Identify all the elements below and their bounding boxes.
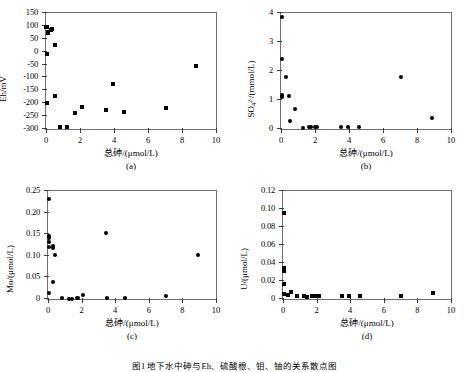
panel-a-plot-area: -300-250-200-150-100-500501001500246810 bbox=[45, 12, 217, 130]
panel-b-x-axis-label: 总砷/(μmol/L) bbox=[280, 146, 452, 159]
x-tick-label-c-5: 10 bbox=[212, 306, 221, 315]
y-tick-label-d-2: 0.04 bbox=[261, 258, 275, 267]
panel-a-x-axis-label: 总砷/(μmol/L) bbox=[45, 146, 217, 159]
y-tick-label-d-5: 0.10 bbox=[261, 204, 275, 213]
panel-c: Mo/(μmol/L) 00.050.100.150.200.250246810… bbox=[0, 180, 234, 358]
x-tick-d-2: 4 bbox=[350, 298, 351, 303]
panel-a-y-axis-label: Eh/mV bbox=[0, 76, 8, 102]
y-tick-b-4: 4 bbox=[277, 12, 282, 13]
data-point bbox=[105, 296, 109, 300]
x-tick-a-3: 6 bbox=[148, 128, 149, 133]
x-tick-label-b-5: 10 bbox=[447, 136, 456, 145]
y-tick-label-a-4: -100 bbox=[23, 72, 38, 81]
x-tick-label-a-4: 8 bbox=[180, 136, 184, 145]
data-point bbox=[280, 57, 284, 61]
data-point bbox=[76, 296, 80, 300]
data-point bbox=[45, 52, 49, 56]
data-point bbox=[358, 294, 362, 298]
data-point bbox=[293, 107, 297, 111]
x-tick-a-2: 4 bbox=[114, 128, 115, 133]
y-tick-label-c-2: 0.10 bbox=[26, 251, 40, 260]
x-tick-d-0: 0 bbox=[283, 298, 284, 303]
y-tick-d-6: 0.12 bbox=[279, 190, 284, 191]
data-point bbox=[282, 269, 286, 273]
y-tick-a-9: 150 bbox=[42, 12, 47, 13]
panel-d-x-axis-label: 总砷/(μmol/L) bbox=[282, 316, 452, 329]
data-point bbox=[399, 294, 403, 298]
data-point bbox=[357, 125, 361, 129]
data-point bbox=[123, 296, 127, 300]
y-tick-c-4: 0.20 bbox=[44, 212, 49, 213]
x-tick-label-b-3: 6 bbox=[381, 136, 385, 145]
y-tick-label-a-8: 100 bbox=[26, 21, 38, 30]
data-point bbox=[399, 75, 403, 79]
y-tick-label-c-4: 0.20 bbox=[26, 207, 40, 216]
data-point bbox=[65, 125, 69, 129]
panel-c-x-axis-label: 总砷/(μmol/L) bbox=[47, 316, 217, 329]
data-point bbox=[431, 291, 435, 295]
y-tick-a-5: -50 bbox=[42, 64, 47, 65]
data-point bbox=[288, 119, 292, 123]
data-point bbox=[53, 94, 57, 98]
data-point bbox=[295, 294, 299, 298]
y-tick-label-c-3: 0.15 bbox=[26, 229, 40, 238]
y-tick-b-3: 3 bbox=[277, 41, 282, 42]
y-tick-label-a-3: -150 bbox=[23, 85, 38, 94]
x-tick-b-0: 0 bbox=[281, 128, 282, 133]
data-point bbox=[164, 106, 168, 110]
y-tick-label-a-9: 150 bbox=[26, 8, 38, 17]
panel-d-sublabel: (d) bbox=[282, 331, 452, 341]
x-tick-a-1: 2 bbox=[80, 128, 81, 133]
x-tick-label-a-3: 6 bbox=[146, 136, 150, 145]
data-point bbox=[104, 231, 108, 235]
y-tick-d-2: 0.04 bbox=[279, 262, 284, 263]
x-tick-label-d-4: 8 bbox=[415, 306, 419, 315]
data-point bbox=[111, 82, 115, 86]
y-tick-label-d-1: 0.02 bbox=[261, 276, 275, 285]
y-tick-a-3: -150 bbox=[42, 89, 47, 90]
x-tick-label-a-0: 0 bbox=[44, 136, 48, 145]
figure-caption: 图1 地下水中砷与Eh、硫酸根、钼、铀的关系散点图 bbox=[0, 362, 469, 372]
data-point bbox=[301, 126, 305, 130]
y-tick-label-a-5: -50 bbox=[27, 59, 38, 68]
y-tick-label-b-2: 2 bbox=[269, 66, 273, 75]
data-point bbox=[47, 236, 51, 240]
y-tick-label-d-6: 0.12 bbox=[261, 186, 275, 195]
panel-b-plot-area: 012340246810 bbox=[280, 12, 452, 130]
data-point bbox=[280, 15, 284, 19]
data-point bbox=[53, 43, 57, 47]
data-point bbox=[196, 253, 200, 257]
y-tick-label-b-3: 3 bbox=[269, 37, 273, 46]
data-point bbox=[47, 240, 51, 244]
panel-c-sublabel: (c) bbox=[47, 331, 217, 341]
y-tick-b-1: 1 bbox=[277, 99, 282, 100]
y-tick-label-a-0: -300 bbox=[23, 124, 38, 133]
x-tick-label-d-2: 4 bbox=[348, 306, 352, 315]
y-tick-label-b-1: 1 bbox=[269, 95, 273, 104]
x-tick-label-a-2: 4 bbox=[112, 136, 116, 145]
x-tick-label-c-3: 6 bbox=[147, 306, 151, 315]
data-point bbox=[104, 108, 108, 112]
x-tick-c-5: 10 bbox=[216, 298, 217, 303]
y-tick-label-d-3: 0.06 bbox=[261, 240, 275, 249]
data-point bbox=[315, 125, 319, 129]
data-point bbox=[58, 125, 62, 129]
data-point bbox=[289, 290, 293, 294]
panel-d: U/(μmol/L) 00.020.040.060.080.100.120246… bbox=[235, 180, 469, 358]
y-tick-label-d-4: 0.08 bbox=[261, 222, 275, 231]
data-point bbox=[45, 101, 49, 105]
data-point bbox=[51, 246, 55, 250]
y-tick-label-c-5: 0.25 bbox=[26, 186, 40, 195]
x-tick-a-0: 0 bbox=[46, 128, 47, 133]
data-point bbox=[346, 125, 350, 129]
x-tick-label-c-2: 4 bbox=[113, 306, 117, 315]
y-tick-label-a-1: -250 bbox=[23, 111, 38, 120]
x-tick-label-d-3: 6 bbox=[382, 306, 386, 315]
x-tick-a-4: 8 bbox=[182, 128, 183, 133]
data-point bbox=[60, 296, 64, 300]
x-tick-label-d-5: 10 bbox=[447, 306, 456, 315]
panel-d-plot-area: 00.020.040.060.080.100.120246810 bbox=[282, 190, 452, 300]
x-tick-label-b-2: 4 bbox=[347, 136, 351, 145]
x-tick-label-a-5: 10 bbox=[212, 136, 221, 145]
panel-b: SO42-/(mmol/L) 012340246810 总砷/(μmol/L) … bbox=[235, 0, 469, 178]
